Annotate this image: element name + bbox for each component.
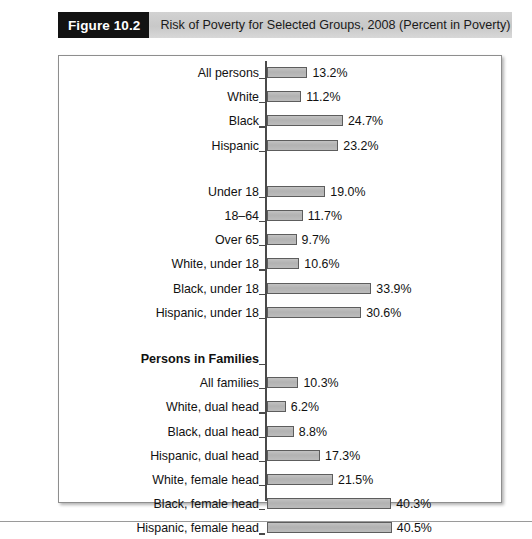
axis-tick <box>259 461 265 462</box>
bar-value-label: 17.3% <box>325 449 360 463</box>
bar-category-label: Black, under 18 <box>59 282 259 296</box>
chart-bar-row: Under 1819.0% <box>59 181 503 203</box>
chart-bar-row: 18–6411.7% <box>59 205 503 227</box>
bar-category-label: All persons <box>59 66 259 80</box>
bar-value-label: 10.6% <box>304 257 339 271</box>
chart-bar-row: Black, under 1833.9% <box>59 278 503 300</box>
axis-tick <box>259 126 265 127</box>
bar-category-label: Hispanic, under 18 <box>59 306 259 320</box>
axis-tick <box>259 388 265 389</box>
bar-value-label: 33.9% <box>376 282 411 296</box>
bar-category-label: Hispanic <box>59 139 259 153</box>
axis-tick <box>259 509 265 510</box>
bar-value-label: 11.7% <box>308 209 342 223</box>
axis-tick <box>259 485 265 486</box>
chart-frame: All persons13.2%White11.2%Black24.7%Hisp… <box>58 55 502 503</box>
figure-title: Risk of Poverty for Selected Groups, 200… <box>149 12 510 38</box>
figure-number-tag: Figure 10.2 <box>58 12 149 38</box>
page-divider-rule <box>0 521 532 522</box>
bar <box>267 401 286 412</box>
bar <box>267 426 294 437</box>
bar <box>267 307 362 318</box>
group-heading-label: Persons in Families <box>59 352 259 366</box>
bar <box>267 474 333 485</box>
chart-bar-row: All families10.3% <box>59 372 503 394</box>
bar <box>267 234 297 245</box>
bar-value-label: 23.2% <box>343 139 378 153</box>
bar-category-label: White, under 18 <box>59 257 259 271</box>
axis-tick <box>259 78 265 79</box>
bar-value-label: 40.5% <box>397 521 432 535</box>
bar-value-label: 13.2% <box>312 66 347 80</box>
chart-group-heading-row: Persons in Families <box>59 348 503 370</box>
chart-bar-row: White, dual head6.2% <box>59 396 503 418</box>
bar-value-label: 6.2% <box>291 400 319 414</box>
bar-category-label: Black <box>59 114 259 128</box>
axis-tick <box>259 412 265 413</box>
bar-category-label: Over 65 <box>59 233 259 247</box>
bar-category-label: 18–64 <box>59 209 259 223</box>
bar-value-label: 40.3% <box>396 497 431 511</box>
bar-chart-plot-area: All persons13.2%White11.2%Black24.7%Hisp… <box>59 56 503 504</box>
chart-bar-row: Black, female head40.3% <box>59 493 503 515</box>
axis-tick <box>259 364 265 365</box>
figure-caption-band: Figure 10.2 Risk of Poverty for Selected… <box>58 12 512 38</box>
bar-category-label: White, dual head <box>59 400 259 414</box>
axis-tick <box>259 197 265 198</box>
bar <box>267 140 339 151</box>
axis-tick <box>259 318 265 319</box>
bar-value-label: 30.6% <box>366 306 401 320</box>
axis-tick <box>259 151 265 152</box>
bar <box>267 498 392 509</box>
chart-bar-row: Black, dual head8.8% <box>59 421 503 443</box>
bar-category-label: White, female head <box>59 473 259 487</box>
bar-value-label: 9.7% <box>302 233 330 247</box>
axis-tick <box>259 245 265 246</box>
chart-bar-row: Over 659.7% <box>59 229 503 251</box>
axis-tick <box>259 437 265 438</box>
bar <box>267 283 372 294</box>
bar <box>267 91 302 102</box>
bar-category-label: All families <box>59 376 259 390</box>
axis-tick <box>259 221 265 222</box>
bar-category-label: Hispanic, dual head <box>59 449 259 463</box>
chart-bar-row: Black24.7% <box>59 110 503 132</box>
bar-category-label: Black, dual head <box>59 425 259 439</box>
bar-value-label: 19.0% <box>330 185 365 199</box>
bar-category-label: Under 18 <box>59 185 259 199</box>
bar <box>267 450 320 461</box>
chart-bar-row: Hispanic, under 1830.6% <box>59 302 503 324</box>
bar-value-label: 10.3% <box>303 376 338 390</box>
bar <box>267 258 300 269</box>
bar <box>267 186 326 197</box>
bar-value-label: 8.8% <box>299 425 327 439</box>
bar <box>267 210 303 221</box>
chart-bar-row: Hispanic, dual head17.3% <box>59 445 503 467</box>
bar <box>267 522 392 533</box>
chart-bar-row: All persons13.2% <box>59 62 503 84</box>
axis-tick <box>259 269 265 270</box>
bar-value-label: 24.7% <box>348 114 383 128</box>
bar-category-label: White <box>59 90 259 104</box>
axis-tick <box>259 294 265 295</box>
bar-value-label: 21.5% <box>338 473 373 487</box>
bar-value-label: 11.2% <box>306 90 340 104</box>
chart-bar-row: White11.2% <box>59 86 503 108</box>
chart-bar-row: Hispanic23.2% <box>59 135 503 157</box>
bar-category-label: Black, female head <box>59 497 259 511</box>
chart-bar-row: White, female head21.5% <box>59 469 503 491</box>
chart-bar-row: White, under 1810.6% <box>59 253 503 275</box>
axis-tick <box>259 102 265 103</box>
bar-category-label: Hispanic, female head <box>59 521 259 535</box>
bar <box>267 67 308 78</box>
bar <box>267 377 299 388</box>
axis-tick <box>259 533 265 534</box>
bar <box>267 115 343 126</box>
